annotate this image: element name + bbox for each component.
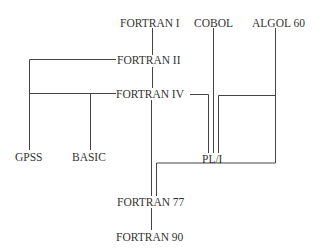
node-algol-60: ALGOL 60 (252, 17, 305, 29)
node-cobol: COBOL (194, 17, 233, 29)
edge-algol-pl1 (219, 96, 276, 154)
edge-fortran4-pl1 (190, 95, 209, 154)
node-fortran-77: FORTRAN 77 (117, 196, 184, 208)
node-fortran-iv: FORTRAN IV (116, 88, 184, 100)
language-family-diagram: FORTRAN I COBOL ALGOL 60 FORTRAN II FORT… (0, 0, 322, 252)
node-fortran-90: FORTRAN 90 (116, 231, 183, 243)
node-fortran-i: FORTRAN I (120, 17, 180, 29)
connector-lines (0, 0, 322, 252)
node-fortran-ii: FORTRAN II (117, 54, 181, 66)
node-gpss: GPSS (15, 151, 43, 163)
node-basic: BASIC (72, 151, 106, 163)
node-pl-i: PL/I (202, 153, 222, 165)
edge-algol-fortran77 (157, 163, 276, 196)
edge-fortran2-gpss (30, 60, 117, 151)
